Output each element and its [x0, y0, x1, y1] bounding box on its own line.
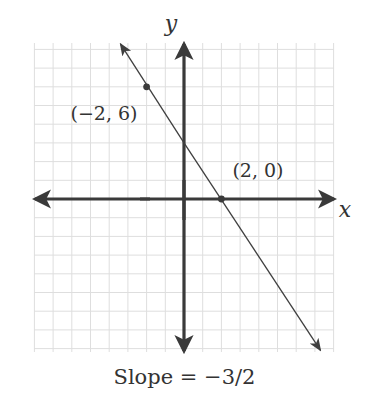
point-label-neg2-6: (−2, 6)	[70, 102, 137, 124]
point-label-2-0: (2, 0)	[232, 159, 283, 181]
plotted-line-upper	[120, 44, 184, 143]
point-2-0	[218, 196, 225, 203]
y-axis-label: y	[164, 11, 178, 36]
slope-caption: Slope = −3/2	[0, 365, 369, 389]
coordinate-plane: y x (−2, 6) (2, 0)	[0, 0, 369, 407]
x-axis-label: x	[339, 197, 352, 222]
point-neg2-6	[143, 83, 150, 90]
